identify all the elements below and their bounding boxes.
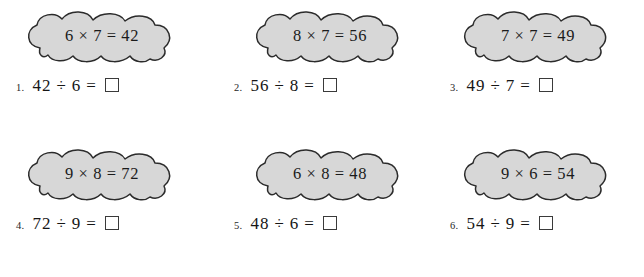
fact-cloud-6: 9 × 6 = 54 [458, 146, 618, 202]
problem-row: 9 × 8 = 72 4. 72 ÷ 9 = 6 × 8 = 48 5. 48 … [0, 142, 644, 262]
problem-cell-1: 6 × 7 = 42 1. 42 ÷ 6 = [0, 4, 215, 124]
equation-line-4: 4. 72 ÷ 9 = [16, 214, 119, 234]
answer-box[interactable] [539, 78, 553, 92]
fact-text: 6 × 7 = 42 [22, 8, 182, 64]
fact-text: 7 × 7 = 49 [458, 8, 618, 64]
problem-cell-5: 6 × 8 = 48 5. 48 ÷ 6 = [208, 142, 423, 262]
equation-line-6: 6. 54 ÷ 9 = [450, 214, 553, 234]
equation-line-2: 2. 56 ÷ 8 = [234, 76, 337, 96]
equation-text: 54 ÷ 9 = [466, 214, 530, 234]
item-number: 6. [450, 220, 458, 231]
equation-line-1: 1. 42 ÷ 6 = [16, 76, 119, 96]
problem-cell-3: 7 × 7 = 49 3. 49 ÷ 7 = [400, 4, 615, 124]
item-number: 3. [450, 82, 458, 93]
equation-text: 42 ÷ 6 = [32, 76, 96, 96]
problem-cell-4: 9 × 8 = 72 4. 72 ÷ 9 = [0, 142, 215, 262]
worksheet: 6 × 7 = 42 1. 42 ÷ 6 = 8 × 7 = 56 2. 56 … [0, 0, 644, 277]
fact-cloud-1: 6 × 7 = 42 [22, 8, 182, 64]
equation-text: 49 ÷ 7 = [466, 76, 530, 96]
fact-text: 8 × 7 = 56 [250, 8, 410, 64]
item-number: 1. [16, 82, 24, 93]
fact-cloud-4: 9 × 8 = 72 [22, 146, 182, 202]
fact-text: 9 × 8 = 72 [22, 146, 182, 202]
equation-line-3: 3. 49 ÷ 7 = [450, 76, 553, 96]
equation-text: 72 ÷ 9 = [32, 214, 96, 234]
fact-cloud-5: 6 × 8 = 48 [250, 146, 410, 202]
problem-row: 6 × 7 = 42 1. 42 ÷ 6 = 8 × 7 = 56 2. 56 … [0, 4, 644, 124]
problem-cell-6: 9 × 6 = 54 6. 54 ÷ 9 = [400, 142, 615, 262]
answer-box[interactable] [105, 216, 119, 230]
equation-text: 48 ÷ 6 = [250, 214, 314, 234]
fact-cloud-3: 7 × 7 = 49 [458, 8, 618, 64]
item-number: 2. [234, 82, 242, 93]
equation-text: 56 ÷ 8 = [250, 76, 314, 96]
answer-box[interactable] [539, 216, 553, 230]
fact-cloud-2: 8 × 7 = 56 [250, 8, 410, 64]
problem-cell-2: 8 × 7 = 56 2. 56 ÷ 8 = [208, 4, 423, 124]
answer-box[interactable] [323, 216, 337, 230]
item-number: 5. [234, 220, 242, 231]
item-number: 4. [16, 220, 24, 231]
answer-box[interactable] [323, 78, 337, 92]
answer-box[interactable] [105, 78, 119, 92]
fact-text: 9 × 6 = 54 [458, 146, 618, 202]
equation-line-5: 5. 48 ÷ 6 = [234, 214, 337, 234]
fact-text: 6 × 8 = 48 [250, 146, 410, 202]
